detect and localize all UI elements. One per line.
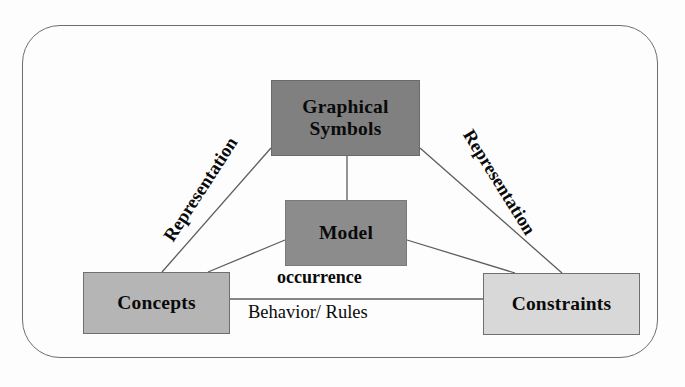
edge-model-concepts xyxy=(208,240,285,272)
node-concepts-label: Concepts xyxy=(117,292,196,314)
node-constraints[interactable]: Constraints xyxy=(483,273,640,335)
node-constraints-label: Constraints xyxy=(512,293,612,315)
node-concepts[interactable]: Concepts xyxy=(83,272,230,334)
node-graphical-symbols-line1: Graphical xyxy=(302,96,388,117)
edge-label-occurrence: occurrence xyxy=(277,267,362,288)
node-model[interactable]: Model xyxy=(285,200,407,266)
edge-model-constraints xyxy=(407,240,515,273)
node-graphical-symbols-label: Graphical Symbols xyxy=(302,96,388,140)
edge-label-behavior-rules: Behavior/ Rules xyxy=(248,302,368,323)
node-graphical-symbols-line2: Symbols xyxy=(310,118,382,139)
node-model-label: Model xyxy=(319,222,373,244)
diagram-canvas: Graphical Symbols Model Concepts Constra… xyxy=(0,0,685,387)
node-graphical-symbols[interactable]: Graphical Symbols xyxy=(271,80,420,156)
